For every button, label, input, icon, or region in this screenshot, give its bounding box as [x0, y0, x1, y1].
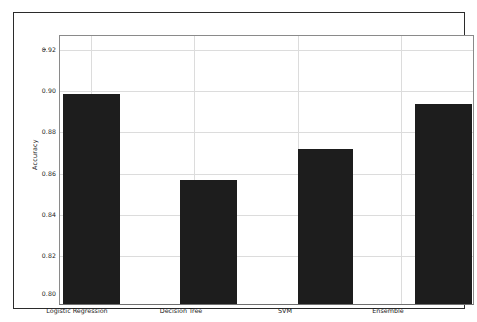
y-tick-label: 0.84: [42, 211, 56, 218]
chart-screenshot: Accuracy 0.92 0.90 0.88 0.86 0.84 0.82 0…: [0, 0, 477, 322]
plot-area: [59, 35, 474, 305]
gridline-0.88: [60, 132, 473, 133]
bar-decision-tree[interactable]: [180, 180, 237, 304]
gridline-0.86: [60, 174, 473, 175]
gridline-0.84: [60, 215, 473, 216]
y-tick-label: 0.88: [42, 128, 56, 135]
y-tick-label: 0.86: [42, 170, 56, 177]
y-tick-label: 0.90: [42, 87, 56, 94]
y-tick-label: 0.82: [42, 252, 56, 259]
bar-logistic-regression[interactable]: [63, 94, 120, 304]
y-axis-label: Accuracy: [31, 139, 39, 170]
bar-ensemble[interactable]: [415, 104, 472, 304]
figure-frame: Accuracy 0.92 0.90 0.88 0.86 0.84 0.82 0…: [13, 12, 465, 309]
gridline-0.82: [60, 256, 473, 257]
gridline-category-4: [401, 36, 402, 304]
gridline-0.92: [60, 50, 473, 51]
y-tick-label: 0.80: [42, 290, 56, 297]
bar-svm[interactable]: [298, 149, 353, 304]
y-tick-mark: [43, 49, 46, 50]
gridline-0.90: [60, 91, 473, 92]
y-tick-label: 0.92: [42, 46, 56, 53]
